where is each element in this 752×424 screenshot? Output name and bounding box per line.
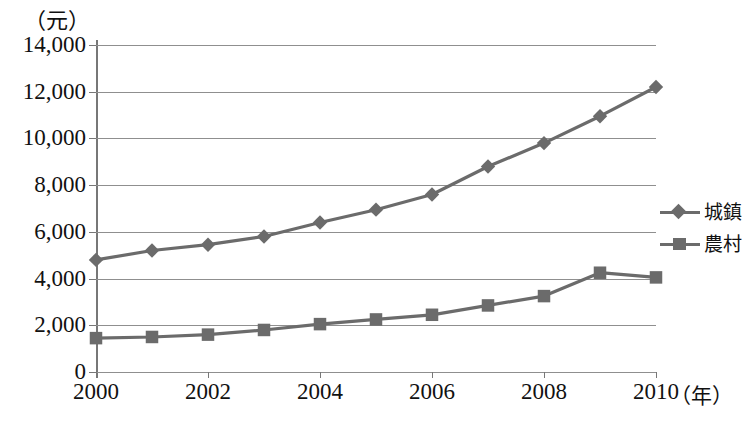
x-axis-tick-mark: [320, 372, 321, 378]
x-axis-unit-label: （年）: [670, 379, 733, 409]
y-axis-tick-mark: [89, 92, 96, 93]
gridline: [96, 138, 656, 139]
x-axis-tick-mark: [432, 372, 433, 378]
y-axis-tick-mark: [89, 138, 96, 139]
legend-swatch-square-icon: [660, 236, 700, 252]
gridline: [96, 279, 656, 280]
legend-marker-diamond-icon: [671, 204, 687, 220]
x-axis-tick-mark: [544, 372, 545, 378]
x-axis-tick-mark: [96, 372, 97, 378]
gridline: [96, 325, 656, 326]
line-chart: （元） 02,0004,0006,0008,00010,00012,00014,…: [0, 0, 752, 424]
y-axis-tick-mark: [89, 45, 96, 46]
y-axis-tick-mark: [89, 185, 96, 186]
gridline: [96, 232, 656, 233]
x-axis-tick-mark: [656, 372, 657, 378]
y-axis-tick-mark: [89, 279, 96, 280]
y-axis-tick-label: 8,000: [34, 172, 86, 198]
x-axis-tick-label: 2006: [409, 379, 455, 405]
legend-entry-農村[interactable]: 農村: [660, 228, 752, 260]
legend-label: 農村: [704, 235, 742, 254]
gridline: [96, 372, 656, 373]
y-axis-tick-label: 6,000: [34, 219, 86, 245]
y-axis-tick-labels: 02,0004,0006,0008,00010,00012,00014,000: [0, 0, 86, 424]
x-axis-tick-label: 2002: [185, 379, 231, 405]
y-axis-tick-label: 4,000: [34, 266, 86, 292]
gridline: [96, 45, 656, 46]
y-axis-tick-mark: [89, 232, 96, 233]
legend-marker-square-icon: [673, 238, 686, 250]
y-axis-tick-mark: [89, 372, 96, 373]
y-axis-tick-label: 14,000: [23, 32, 86, 58]
gridline: [96, 185, 656, 186]
legend-entry-城鎮[interactable]: 城鎮: [660, 196, 752, 228]
y-axis-tick-label: 10,000: [23, 125, 86, 151]
y-axis-tick-label: 12,000: [23, 79, 86, 105]
plot-area: [96, 45, 656, 372]
x-axis-tick-label: 2000: [73, 379, 119, 405]
chart-legend: 城鎮農村: [660, 196, 752, 260]
x-axis-tick-label: 2004: [297, 379, 343, 405]
gridline: [96, 92, 656, 93]
x-axis-tick-mark: [208, 372, 209, 378]
x-axis-tick-label: 2008: [521, 379, 567, 405]
legend-label: 城鎮: [704, 203, 742, 222]
legend-swatch-diamond-icon: [660, 204, 700, 220]
y-axis-tick-label: 2,000: [34, 312, 86, 338]
y-axis-tick-mark: [89, 325, 96, 326]
